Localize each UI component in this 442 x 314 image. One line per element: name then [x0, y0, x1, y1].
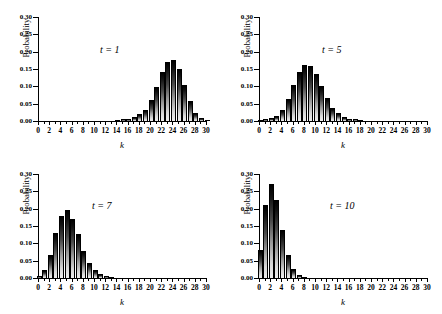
- x-tick-label: 22: [378, 283, 386, 292]
- bar: [137, 114, 142, 121]
- bar: [205, 120, 210, 121]
- y-tick-label: 0.15: [2, 65, 32, 73]
- panel-title: t = 5: [322, 44, 342, 55]
- x-axis-line: [259, 278, 428, 279]
- plot-area: [38, 174, 206, 278]
- y-tick-label: 0.10: [2, 82, 32, 90]
- y-tick-label: 0.05: [223, 100, 253, 108]
- x-tick-label: 30: [202, 126, 210, 135]
- bar: [42, 270, 47, 278]
- x-tick-label: 12: [322, 126, 330, 135]
- y-tick-label: 0.05: [223, 257, 253, 265]
- x-tick-label: 4: [280, 126, 284, 135]
- x-tick-label: 0: [36, 126, 40, 135]
- x-tick-label: 12: [101, 283, 109, 292]
- y-tick-label: 0.20: [2, 205, 32, 213]
- bar: [269, 118, 274, 121]
- bar: [98, 274, 103, 278]
- bar: [177, 69, 182, 121]
- x-tick-label: 8: [81, 283, 85, 292]
- bar: [263, 205, 268, 278]
- panel-title: t = 10: [330, 200, 355, 211]
- x-tick-label: 28: [191, 283, 199, 292]
- y-tick-label: 0.10: [2, 239, 32, 247]
- y-tick-label: 0.10: [223, 82, 253, 90]
- bar: [325, 98, 330, 121]
- y-tick-label: 0.00: [2, 117, 32, 125]
- bar: [353, 119, 358, 121]
- y-tick-label: 0.30: [223, 13, 253, 21]
- bar: [258, 250, 263, 278]
- x-tick-label: 10: [311, 283, 319, 292]
- bar: [93, 270, 98, 278]
- x-tick-label: 0: [257, 283, 261, 292]
- bar: [160, 72, 165, 121]
- y-tick-label: 0.30: [2, 170, 32, 178]
- x-tick-label: 18: [135, 283, 143, 292]
- x-tick-label: 26: [180, 283, 188, 292]
- y-tick-label: 0.30: [223, 170, 253, 178]
- x-tick-label: 18: [356, 126, 364, 135]
- bar: [149, 100, 154, 121]
- bar: [109, 277, 114, 278]
- chart-panel-2: Probability0.000.050.100.150.200.250.300…: [221, 0, 442, 157]
- y-tick-label: 0.20: [223, 205, 253, 213]
- bar: [126, 119, 131, 121]
- x-tick-label: 2: [268, 283, 272, 292]
- y-tick-label: 0.15: [2, 222, 32, 230]
- x-tick-label: 14: [113, 126, 121, 135]
- bar: [65, 210, 70, 278]
- x-tick-label: 6: [291, 283, 295, 292]
- bar: [297, 275, 302, 278]
- x-tick-label: 6: [70, 283, 74, 292]
- bar: [330, 108, 335, 121]
- x-tick-label: 22: [157, 283, 165, 292]
- bar: [286, 255, 291, 278]
- bar: [70, 219, 75, 278]
- y-tick-label: 0.05: [2, 257, 32, 265]
- y-tick-label: 0.20: [2, 48, 32, 56]
- x-tick-label: 20: [146, 126, 154, 135]
- y-tick-label: 0.00: [2, 274, 32, 282]
- x-tick-label: 4: [59, 283, 63, 292]
- bar: [121, 119, 126, 121]
- bar: [319, 86, 324, 121]
- x-tick-label: 0: [36, 283, 40, 292]
- plot-area: [38, 17, 206, 121]
- x-tick-label: 28: [191, 126, 199, 135]
- bar: [81, 251, 86, 278]
- bar: [87, 263, 92, 278]
- x-tick-label: 20: [367, 283, 375, 292]
- bar: [115, 120, 120, 121]
- x-tick-label: 18: [135, 126, 143, 135]
- x-tick-label: 0: [257, 126, 261, 135]
- bar: [302, 277, 307, 278]
- x-axis-label: k: [259, 297, 427, 307]
- bar: [280, 230, 285, 278]
- y-tick-label: 0.05: [2, 100, 32, 108]
- bar: [291, 269, 296, 278]
- bar: [347, 119, 352, 121]
- bar: [286, 99, 291, 121]
- bar: [37, 276, 42, 278]
- x-tick-label: 24: [390, 283, 398, 292]
- x-tick-label: 8: [302, 283, 306, 292]
- x-tick-label: 2: [47, 283, 51, 292]
- bar: [132, 117, 137, 121]
- y-tick-label: 0.25: [2, 30, 32, 38]
- bar: [171, 60, 176, 121]
- x-axis-label: k: [259, 140, 427, 150]
- x-tick-label: 30: [202, 283, 210, 292]
- bar: [308, 66, 313, 121]
- bar: [104, 276, 109, 278]
- bar: [154, 87, 159, 121]
- y-tick-label: 0.00: [223, 117, 253, 125]
- y-tick-label: 0.25: [2, 187, 32, 195]
- bar: [336, 113, 341, 121]
- bar: [274, 200, 279, 278]
- x-tick-label: 8: [81, 126, 85, 135]
- x-tick-label: 20: [367, 126, 375, 135]
- x-tick-label: 20: [146, 283, 154, 292]
- panel-title: t = 7: [92, 200, 112, 211]
- x-tick-label: 14: [334, 126, 342, 135]
